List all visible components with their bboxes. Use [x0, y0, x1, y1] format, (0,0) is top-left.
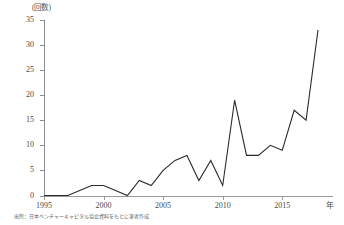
- x-axis-unit-label: 年: [326, 201, 334, 210]
- data-line: [44, 30, 318, 195]
- chart-figure: (回数) 05101520253035 19952000200520102015…: [0, 0, 344, 225]
- source-note: 出所：日本ベンチャーキャピタル協会資料をもとに筆者作成: [14, 214, 149, 220]
- line-series-plot: [0, 0, 344, 225]
